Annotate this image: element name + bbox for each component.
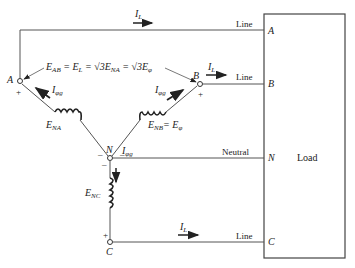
enc-label: ENC (85, 188, 100, 200)
leader-b (165, 68, 196, 82)
plus-b: + (198, 90, 203, 99)
line-a-label: Line (236, 20, 253, 29)
terminal-n (108, 156, 113, 161)
terminal-b-label: B (193, 71, 199, 81)
terminal-c (108, 240, 113, 245)
enb-label: ENB= Eφ (148, 120, 182, 132)
iphase-label-b: Iφg (155, 85, 166, 97)
load-terminal-b: B (268, 79, 274, 89)
il-label-top: IL (135, 9, 142, 21)
terminal-b (198, 82, 203, 87)
terminal-a (18, 79, 23, 84)
load-terminal-a: A (268, 26, 274, 36)
load-terminal-c: C (268, 237, 275, 247)
circuit-diagram (0, 0, 355, 268)
coil-a (55, 109, 81, 120)
line-voltage-equation: EAB = EL = √3ENA = √3Eφ (46, 62, 152, 74)
load-label: Load (297, 153, 318, 163)
phase-a-winding (22, 84, 55, 112)
leader-a (24, 68, 44, 79)
terminal-n-label: N (106, 145, 113, 155)
neutral-label: Neutral (222, 148, 249, 157)
minus-n-c: – (102, 160, 107, 169)
plus-c: + (103, 231, 108, 240)
plus-a: + (16, 88, 21, 97)
il-label-b: IL (208, 62, 215, 74)
load-box (264, 14, 345, 258)
terminal-a-label: A (7, 75, 13, 85)
iphase-arrow-a (36, 88, 50, 98)
il-label-c: IL (180, 222, 187, 234)
line-b-label: Line (236, 73, 253, 82)
terminal-c-label: C (106, 247, 113, 257)
iphase-label-c: Iφg (122, 146, 133, 158)
minus-n-a: – (98, 150, 103, 159)
coil-c (110, 178, 113, 208)
line-c-label: Line (236, 232, 253, 241)
load-terminal-n: N (268, 153, 275, 163)
ena-label: ENA (46, 120, 61, 132)
iphase-arrow-b (167, 90, 183, 100)
iphase-label-a: Iφg (52, 85, 63, 97)
